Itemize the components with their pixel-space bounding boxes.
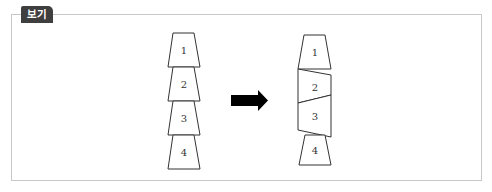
after-block-1: 1 <box>298 35 331 69</box>
after-block-3: 3 <box>298 95 331 137</box>
before-block-1: 1 <box>168 33 200 67</box>
diagram-canvas: 1 2 3 4 1 2 3 <box>0 0 492 192</box>
before-stack: 1 2 3 4 <box>168 33 200 169</box>
before-block-2: 2 <box>168 67 200 101</box>
after-block-3-label: 3 <box>312 111 318 122</box>
after-block-2-label: 2 <box>312 82 318 93</box>
before-block-3: 3 <box>168 101 200 135</box>
before-block-4: 4 <box>168 135 200 169</box>
right-arrow-icon <box>231 90 268 111</box>
after-stack: 1 2 3 4 <box>298 35 331 165</box>
after-block-4: 4 <box>299 135 331 165</box>
before-block-4-label: 4 <box>181 147 187 158</box>
before-block-2-label: 2 <box>181 79 187 90</box>
after-block-1-label: 1 <box>312 47 318 58</box>
before-block-1-label: 1 <box>181 45 187 56</box>
after-block-4-label: 4 <box>312 145 318 156</box>
before-block-3-label: 3 <box>181 113 187 124</box>
